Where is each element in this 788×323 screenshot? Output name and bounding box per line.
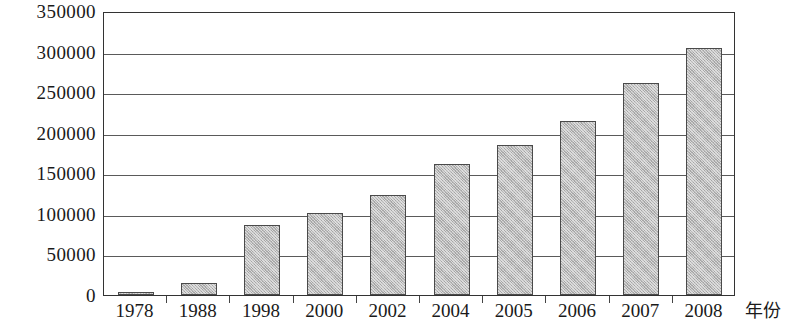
x-axis-title: 年份: [745, 300, 781, 322]
x-axis-tick-label: 2006: [545, 300, 608, 322]
x-axis-tick-label: 1988: [166, 300, 229, 322]
y-axis-tick-label: 350000: [4, 2, 96, 21]
y-axis-tick-label: 250000: [4, 83, 96, 102]
y-axis-tick-label: 50000: [4, 245, 96, 264]
bar: [623, 83, 659, 295]
bar: [560, 121, 596, 295]
x-axis-tick-label: 2002: [356, 300, 419, 322]
bar: [497, 145, 533, 295]
bar-chart: 0500001000001500002000002500003000003500…: [0, 0, 788, 323]
y-axis-tick-label: 150000: [4, 164, 96, 183]
y-axis-tick-label: 300000: [4, 43, 96, 62]
x-axis-tick-label: 1978: [103, 300, 166, 322]
x-axis-tick-label: 2004: [419, 300, 482, 322]
plot-area: [103, 12, 735, 296]
x-axis-tick-label: 2000: [293, 300, 356, 322]
bar: [307, 213, 343, 295]
bar: [370, 195, 406, 295]
y-axis-labels: 0500001000001500002000002500003000003500…: [0, 0, 96, 323]
x-axis-tick-label: 2008: [672, 300, 735, 322]
x-axis-tick-label: 2007: [609, 300, 672, 322]
y-axis-tick-label: 200000: [4, 124, 96, 143]
bars-layer: [104, 13, 734, 295]
x-axis-tick-label: 1998: [229, 300, 292, 322]
bar: [181, 283, 217, 295]
bar: [118, 292, 154, 295]
bar: [686, 48, 722, 295]
y-axis-tick-label: 0: [4, 286, 96, 305]
y-axis-tick-label: 100000: [4, 205, 96, 224]
bar: [244, 225, 280, 295]
bar: [434, 164, 470, 295]
x-axis-tick-label: 2005: [482, 300, 545, 322]
x-axis-labels: 1978198819982000200220042005200620072008: [103, 300, 735, 323]
